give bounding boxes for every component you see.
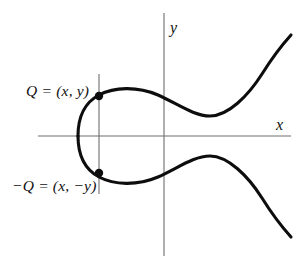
curve-plot: y x [0, 0, 307, 269]
x-axis-label: x [275, 116, 283, 133]
curve-lower-branch [78, 136, 291, 237]
y-axis-label: y [168, 19, 178, 37]
point-q-label: Q = (x, y) [26, 82, 89, 100]
point-q-dot [95, 92, 103, 100]
curve-upper-branch [78, 35, 291, 136]
point-neg-q-dot [95, 169, 103, 177]
elliptic-curve-figure: y x Q = (x, y) −Q = (x, −y) [0, 0, 307, 269]
point-neg-q-label: −Q = (x, −y) [12, 177, 97, 195]
